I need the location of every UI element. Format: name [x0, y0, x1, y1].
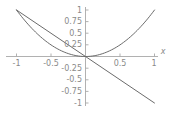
y-tick-label-075: 0.75 — [64, 17, 82, 26]
y-tick-label-neg075: -0.75 — [61, 87, 82, 96]
x-tick-label-half: 0.5 — [114, 59, 127, 68]
y-tick-label-neg05: -0.5 — [66, 75, 82, 84]
function-plot: -1 -0.5 0.5 1 1 0.75 0.5 0.25 -0.25 -0.5… — [0, 0, 173, 113]
x-tick-label-neg-half: -0.5 — [43, 59, 59, 68]
y-tick-label-025: 0.25 — [64, 40, 82, 49]
x-tick-label-one: 1 — [151, 59, 156, 68]
y-tick-label-1: 1 — [77, 6, 82, 15]
y-tick-label-05: 0.5 — [69, 29, 82, 38]
y-tick-label-neg025: -0.25 — [61, 64, 82, 73]
x-axis-label: x — [160, 47, 166, 56]
plot-canvas: -1 -0.5 0.5 1 1 0.75 0.5 0.25 -0.25 -0.5… — [0, 0, 173, 113]
x-tick-label-neg1: -1 — [13, 59, 21, 68]
y-tick-label-neg1: -1 — [74, 99, 82, 108]
